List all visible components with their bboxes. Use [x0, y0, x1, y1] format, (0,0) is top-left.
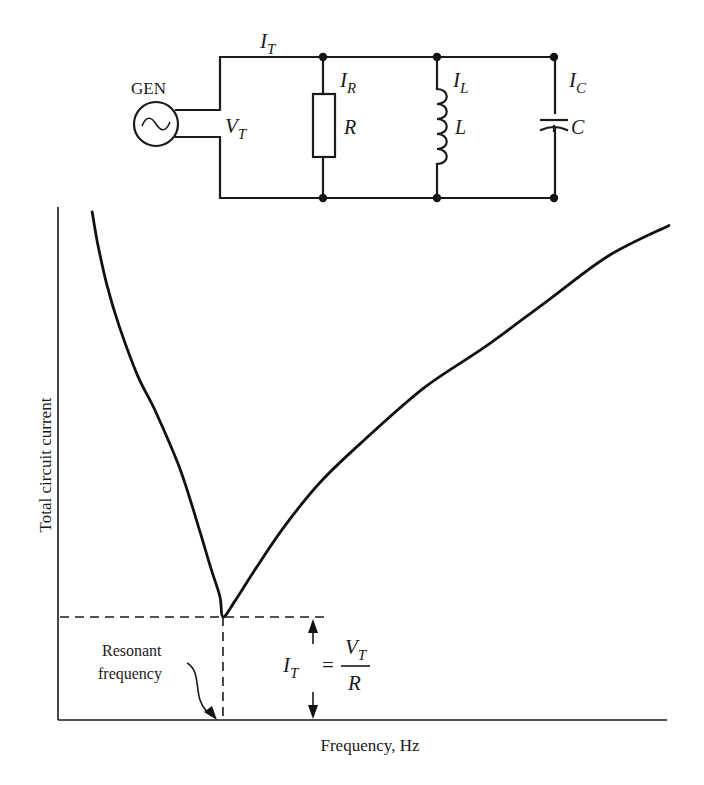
resistor-label: R — [343, 116, 356, 138]
current-curve — [92, 212, 669, 617]
resonance-chart: Total circuit current Frequency, Hz IT =… — [36, 207, 669, 755]
formula-lhs-subscript: T — [290, 665, 300, 681]
y-axis-label: Total circuit current — [36, 397, 55, 532]
inductor-coil-icon — [437, 89, 447, 164]
resonant-label-line2: frequency — [98, 665, 162, 683]
total-current-subscript: T — [267, 41, 277, 57]
resistor-current-label: IR — [339, 68, 356, 96]
resistor-current-subscript: R — [346, 80, 356, 96]
circuit-diagram: GEN IT VT IR R — [131, 29, 587, 202]
diagram-canvas: GEN IT VT IR R — [0, 0, 704, 785]
arrow-up-icon — [308, 619, 318, 633]
formula-denominator: R — [347, 671, 361, 695]
junction-dot — [550, 194, 558, 202]
minimum-current-formula: IT = VT R — [282, 635, 370, 695]
formula-numerator: VT — [345, 635, 368, 663]
formula-equals: = — [322, 653, 334, 677]
generator-label: GEN — [131, 79, 166, 98]
total-voltage-subscript: T — [238, 126, 248, 142]
capacitor-current-label: IC — [568, 68, 587, 96]
capacitor-current-subscript: C — [576, 80, 587, 96]
inductor-current-subscript: L — [459, 80, 468, 96]
total-current-label: IT — [259, 29, 277, 57]
inductor-label: L — [454, 116, 466, 138]
resistor-symbol — [313, 94, 335, 157]
total-voltage-label: VT — [225, 114, 248, 142]
inductor-current-label: IL — [452, 68, 468, 96]
capacitor-label: C — [571, 116, 585, 138]
gen-bottom-lead — [176, 137, 555, 198]
junction-dot — [550, 53, 558, 61]
formula-numerator-subscript: T — [358, 647, 368, 663]
formula-lhs: IT — [282, 653, 300, 681]
x-axis-label: Frequency, Hz — [321, 736, 420, 755]
sine-wave-icon — [142, 118, 170, 130]
arrow-down-icon — [308, 705, 318, 719]
resonant-label-line1: Resonant — [102, 642, 162, 659]
arrowhead-icon — [204, 706, 217, 720]
